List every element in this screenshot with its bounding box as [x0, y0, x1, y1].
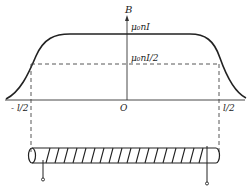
- right-end-label: l/2: [223, 103, 235, 113]
- solenoid-left-end: [29, 148, 36, 163]
- b-axis-label: B: [124, 4, 132, 15]
- solenoid-field-diagram: B μ₀nI μ₀nI/2 O - l/2 l/2: [0, 0, 250, 189]
- max-value-label: μ₀nI: [131, 22, 150, 32]
- left-end-label: - l/2: [11, 103, 29, 113]
- coil-windings: [46, 148, 203, 163]
- half-value-label: μ₀nI/2: [131, 53, 159, 63]
- b-axis-arrow-icon: [125, 15, 129, 21]
- origin-label: O: [120, 103, 128, 113]
- field-curve: [6, 34, 246, 99]
- right-terminal-icon: [206, 182, 209, 185]
- solenoid: [29, 146, 220, 185]
- left-terminal-icon: [42, 178, 45, 181]
- solenoid-right-end: [216, 148, 220, 163]
